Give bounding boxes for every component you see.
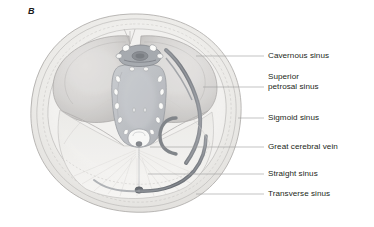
label-straight-sinus: Straight sinus <box>268 169 318 179</box>
label-transverse-sinus: Transverse sinus <box>268 189 330 199</box>
label-cavernous-sinus: Cavernous sinus <box>268 51 329 61</box>
label-sigmoid-sinus: Sigmoid sinus <box>268 113 319 123</box>
label-list: Cavernous sinus Superior petrosal sinus … <box>0 0 374 227</box>
label-superior-petrosal-sinus: Superior petrosal sinus <box>268 72 319 91</box>
label-great-cerebral-vein: Great cerebral vein <box>268 142 338 152</box>
